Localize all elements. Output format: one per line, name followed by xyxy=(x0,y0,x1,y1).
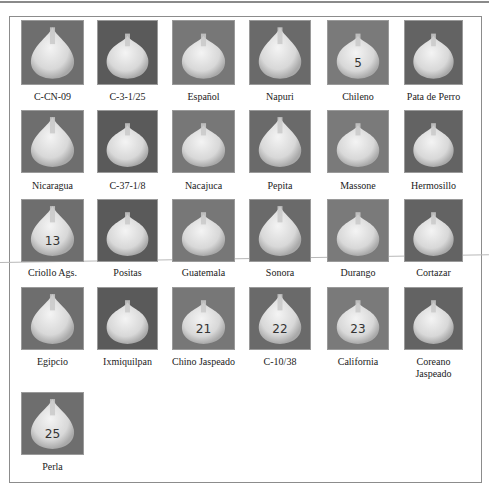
garlic-photo xyxy=(404,199,463,262)
garlic-bulb-icon xyxy=(173,21,234,84)
garlic-bulb-icon: 25 xyxy=(22,393,83,454)
garlic-bulb-icon xyxy=(405,111,462,172)
variety-label: Ixmiquilpan xyxy=(103,356,152,368)
variety-label: Pata de Perro xyxy=(407,91,460,103)
variety-label: Chileno xyxy=(342,91,374,103)
garlic-bulb-icon xyxy=(250,200,310,261)
variety-label: C-3-1/25 xyxy=(109,91,145,103)
variety-label: California xyxy=(338,356,379,368)
garlic-photo xyxy=(21,287,84,350)
svg-text:5: 5 xyxy=(354,56,362,70)
garlic-bulb-icon: 13 xyxy=(22,200,83,261)
variety-label: Cortazar xyxy=(416,267,450,279)
garlic-bulb-icon: 5 xyxy=(328,21,388,84)
garlic-bulb-icon: 22 xyxy=(250,288,310,349)
variety-label: Hermosillo xyxy=(411,180,456,192)
garlic-bulb-icon xyxy=(405,200,462,261)
garlic-photo xyxy=(249,20,311,85)
garlic-photo: 25 xyxy=(21,392,84,455)
garlic-bulb-icon xyxy=(173,111,234,172)
svg-text:22: 22 xyxy=(272,322,287,336)
garlic-photo xyxy=(97,199,158,262)
variety-label: Nacajuca xyxy=(185,180,222,192)
variety-label: Coreano Jaspeado xyxy=(415,356,451,380)
variety-label: C-CN-09 xyxy=(34,91,71,103)
garlic-photo xyxy=(404,110,463,173)
garlic-bulb-icon xyxy=(98,111,157,172)
garlic-photo xyxy=(404,287,463,350)
variety-label: C-37-1/8 xyxy=(109,180,145,192)
variety-label: Sonora xyxy=(266,267,294,279)
garlic-bulb-icon xyxy=(250,21,310,84)
garlic-photo xyxy=(172,199,235,262)
garlic-photo: 13 xyxy=(21,199,84,262)
garlic-photo xyxy=(172,20,235,85)
svg-text:23: 23 xyxy=(350,322,365,336)
garlic-bulb-icon: 21 xyxy=(173,288,234,349)
variety-label: Pepita xyxy=(268,180,293,192)
garlic-bulb-icon xyxy=(328,111,388,172)
variety-label: Egipcio xyxy=(37,356,68,368)
garlic-photo xyxy=(97,110,158,173)
garlic-photo xyxy=(249,199,311,262)
garlic-photo: 23 xyxy=(327,287,389,350)
garlic-bulb-icon xyxy=(22,21,83,84)
garlic-photo xyxy=(97,20,158,85)
variety-label: Perla xyxy=(42,461,63,473)
variety-label: Massone xyxy=(340,180,376,192)
garlic-bulb-icon xyxy=(22,111,83,172)
garlic-bulb-icon xyxy=(250,111,310,172)
garlic-bulb-icon xyxy=(98,288,157,349)
variety-label: Criollo Ags. xyxy=(28,267,77,279)
garlic-bulb-icon xyxy=(405,288,462,349)
variety-label: Chino Jaspeado xyxy=(172,356,235,368)
garlic-photo xyxy=(404,20,463,85)
garlic-photo xyxy=(21,20,84,85)
variety-label: C-10/38 xyxy=(264,356,297,368)
garlic-photo xyxy=(327,110,389,173)
garlic-bulb-icon: 23 xyxy=(328,288,388,349)
garlic-bulb-icon xyxy=(173,200,234,261)
garlic-photo: 22 xyxy=(249,287,311,350)
variety-label: Nicaragua xyxy=(32,180,73,192)
variety-label: Durango xyxy=(341,267,376,279)
svg-text:25: 25 xyxy=(45,427,61,441)
garlic-bulb-icon xyxy=(405,21,462,84)
garlic-photo xyxy=(172,110,235,173)
variety-label: Napuri xyxy=(266,91,294,103)
garlic-photo xyxy=(21,110,84,173)
svg-text:13: 13 xyxy=(45,234,61,248)
svg-text:21: 21 xyxy=(196,322,212,336)
variety-label: Español xyxy=(187,91,219,103)
garlic-photo: 5 xyxy=(327,20,389,85)
variety-label: Guatemala xyxy=(182,267,225,279)
garlic-bulb-icon xyxy=(98,200,157,261)
garlic-bulb-icon xyxy=(22,288,83,349)
top-rule xyxy=(0,1,489,3)
garlic-bulb-icon xyxy=(328,200,388,261)
garlic-photo: 21 xyxy=(172,287,235,350)
garlic-photo xyxy=(327,199,389,262)
garlic-photo xyxy=(97,287,158,350)
garlic-bulb-icon xyxy=(98,21,157,84)
garlic-photo xyxy=(249,110,311,173)
variety-label: Positas xyxy=(113,267,141,279)
